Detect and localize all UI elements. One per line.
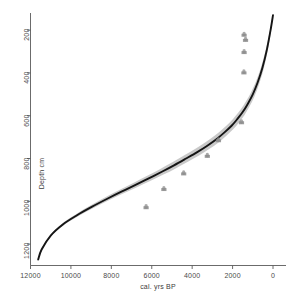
x-tick-label: 12000 <box>11 272 51 279</box>
x-tick-label: 0 <box>253 272 293 279</box>
x-axis-ticks <box>31 266 274 270</box>
age-depth-curve <box>38 15 273 259</box>
y-tick-label: 200 <box>22 29 29 55</box>
calibrated-date-marker <box>181 170 186 175</box>
y-tick-label: 400 <box>22 71 29 97</box>
calibrated-date-marker <box>161 186 166 191</box>
calibrated-date-marker <box>242 49 247 54</box>
y-tick-label: 600 <box>22 114 29 140</box>
calibrated-date-marker <box>205 153 210 158</box>
axis-lines <box>31 13 287 266</box>
calibrated-date-marker <box>241 69 246 74</box>
y-axis-title: Depth cm <box>38 144 45 204</box>
chart-plot-area <box>0 0 303 297</box>
calibrated-date-marker <box>243 37 248 42</box>
x-tick-label: 4000 <box>172 272 212 279</box>
x-tick-label: 6000 <box>132 272 172 279</box>
confidence-envelope <box>38 15 273 260</box>
y-tick-label: 1000 <box>22 200 29 226</box>
calibrated-date-marker <box>242 32 247 37</box>
y-tick-label: 800 <box>22 157 29 183</box>
x-tick-label: 10000 <box>51 272 91 279</box>
x-tick-label: 2000 <box>213 272 253 279</box>
age-depth-chart: Depth cm cal. yrs BP 1200010000800060004… <box>0 0 303 297</box>
x-axis-title: cal. yrs BP <box>118 283 198 290</box>
calibrated-date-marker <box>143 204 148 209</box>
y-tick-label: 1200 <box>22 243 29 269</box>
x-tick-label: 8000 <box>91 272 131 279</box>
